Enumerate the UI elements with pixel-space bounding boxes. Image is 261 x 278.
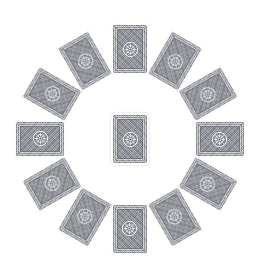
ring-card-1[interactable] <box>111 23 149 75</box>
card-back-face <box>113 115 148 164</box>
rosette-medallion-icon <box>123 132 138 147</box>
ring-card-7[interactable] <box>111 203 149 255</box>
center-card[interactable] <box>111 113 149 165</box>
rosette-medallion-icon <box>213 132 228 147</box>
card-back-face <box>16 122 65 157</box>
rosette-medallion-icon <box>33 132 48 147</box>
rosette-medallion-icon <box>123 42 138 57</box>
card-back-face <box>113 205 148 254</box>
card-back-face <box>113 25 148 74</box>
ring-card-10[interactable] <box>14 120 66 158</box>
card-back-face <box>196 122 245 157</box>
ring-card-4[interactable] <box>194 120 246 158</box>
card-arrangement-canvas <box>0 0 261 278</box>
rosette-medallion-icon <box>123 222 138 237</box>
